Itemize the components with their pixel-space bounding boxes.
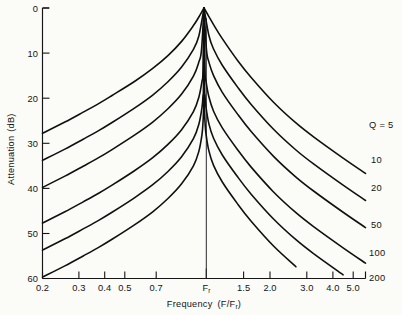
x-tick-label-4p0: 4.0	[326, 283, 339, 293]
y-tick-label-20: 20	[27, 94, 38, 104]
y-axis-title: Attenuation(dB)	[6, 113, 16, 185]
curve-q10-left	[43, 8, 205, 160]
series-label-q50: 50	[371, 220, 382, 230]
series-label-q5: Q = 5	[369, 120, 394, 130]
x-axis-title-unit-pre: (F/F	[218, 299, 236, 309]
series-label-q100: 100	[369, 248, 385, 258]
y-axis-title-main: Attenuation	[6, 136, 16, 185]
y-tick-marks	[43, 8, 50, 279]
y-tick-label-60: 60	[27, 274, 38, 284]
chart-svg: 0 10 20 30 40 50 60 0.2 0.3 0.4	[0, 0, 402, 315]
series-label-q200: 200	[369, 273, 385, 283]
curve-q20-right	[204, 8, 366, 228]
x-tick-label-5p0: 5.0	[347, 283, 360, 293]
y-tick-labels: 0 10 20 30 40 50 60	[27, 4, 38, 284]
x-tick-label-0p3: 0.3	[72, 283, 85, 293]
x-tick-label-fr: Fr	[203, 283, 212, 294]
curve-q5-right	[204, 8, 366, 173]
x-tick-label-1p5: 1.5	[237, 283, 250, 293]
attenuation-vs-frequency-chart: 0 10 20 30 40 50 60 0.2 0.3 0.4	[0, 0, 402, 315]
y-axis-title-unit: (dB)	[6, 113, 16, 131]
y-tick-label-0: 0	[33, 4, 38, 14]
x-tick-label-0p7: 0.7	[150, 283, 163, 293]
x-tick-label-2p0: 2.0	[263, 283, 276, 293]
x-axis-title-unit-post: )	[238, 299, 241, 309]
x-tick-label-3p0: 3.0	[300, 283, 313, 293]
x-axis-title: Frequency(F/Fr)	[167, 299, 241, 310]
curve-group	[43, 8, 366, 277]
y-tick-label-10: 10	[27, 49, 38, 59]
x-tick-labels: 0.2 0.3 0.4 0.5 0.7 Fr 1.5 2.0 3.0 4.0 5…	[36, 283, 360, 294]
series-labels: Q = 5 10 20 50 100 200	[369, 120, 394, 283]
y-tick-label-30: 30	[27, 139, 38, 149]
x-tick-label-0p5: 0.5	[118, 283, 131, 293]
x-tick-label-0p4: 0.4	[98, 283, 111, 293]
x-axis-title-main: Frequency	[167, 299, 213, 309]
fr-sub: r	[208, 287, 211, 294]
series-label-q10: 10	[371, 155, 382, 165]
y-tick-label-50: 50	[27, 229, 38, 239]
x-tick-label-0p2: 0.2	[36, 283, 49, 293]
curve-q20-left	[43, 8, 205, 187]
x-tick-marks	[43, 269, 354, 279]
y-tick-label-40: 40	[27, 184, 38, 194]
curve-q10-right	[204, 8, 366, 201]
curve-q100-right	[204, 8, 343, 275]
series-label-q20: 20	[371, 183, 382, 193]
